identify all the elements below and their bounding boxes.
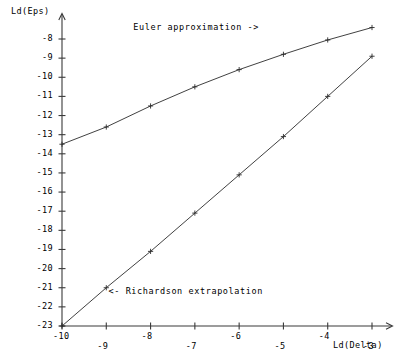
y-axis-title: Ld(Eps) (11, 6, 50, 16)
y-tick-label: -16 (36, 186, 53, 196)
x-axis-title: Ld(Delta) (333, 340, 383, 350)
data-point-marker (192, 84, 197, 89)
data-point-marker (369, 25, 374, 30)
euler-annotation: Euler approximation -> (0, 22, 259, 32)
x-tick-label: -5 (274, 341, 285, 351)
data-point-marker (59, 142, 64, 147)
x-tick-label: -8 (142, 331, 153, 341)
x-tick-label: -7 (186, 341, 197, 351)
y-tick-label: -13 (36, 129, 53, 139)
y-tick-label: -11 (36, 90, 53, 100)
y-tick-label: -19 (36, 243, 53, 253)
data-point-marker (325, 37, 330, 42)
data-point-marker (281, 52, 286, 57)
y-tick-label: -17 (36, 205, 53, 215)
data-point-marker (237, 67, 242, 72)
y-tick-label: -15 (36, 167, 53, 177)
richardson-annotation: <- Richardson extrapolation (109, 286, 263, 296)
y-tick-label: -9 (42, 52, 53, 62)
x-tick-label: -10 (53, 331, 70, 341)
y-tick-label: -23 (36, 320, 53, 330)
data-point-marker (148, 103, 153, 108)
chart-screenshot: -8-9-10-11-12-13-14-15-16-17-18-19-20-21… (0, 0, 410, 355)
y-tick-label: -10 (36, 71, 53, 81)
y-tick-label: -18 (36, 224, 53, 234)
x-tick-label: -6 (230, 331, 241, 341)
y-tick-label: -21 (36, 282, 53, 292)
y-tick-label: -22 (36, 301, 53, 311)
y-tick-label: -12 (36, 110, 53, 120)
x-tick-label: -9 (97, 341, 108, 351)
y-tick-label: -20 (36, 263, 53, 273)
data-series (59, 25, 374, 329)
data-point-marker (104, 124, 109, 129)
y-tick-label: -8 (42, 33, 53, 43)
plot-area (0, 0, 410, 355)
x-tick-label: -4 (319, 331, 330, 341)
y-tick-label: -14 (36, 148, 53, 158)
axes (59, 14, 393, 330)
